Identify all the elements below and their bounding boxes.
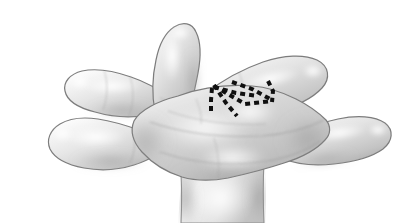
ring-tip-highlight bbox=[302, 63, 324, 79]
marking-stroke bbox=[211, 88, 212, 113]
thumb-tip-highlight bbox=[52, 126, 74, 142]
hand-illustration bbox=[0, 0, 409, 223]
thumb-shadow bbox=[72, 153, 148, 169]
little-tip-highlight bbox=[368, 123, 388, 137]
index-tip-highlight bbox=[69, 74, 91, 90]
middle-tip-highlight bbox=[169, 25, 191, 41]
thumb-highlight bbox=[66, 126, 126, 148]
palm-highlight-lower bbox=[198, 145, 266, 171]
figure-root bbox=[0, 0, 409, 223]
